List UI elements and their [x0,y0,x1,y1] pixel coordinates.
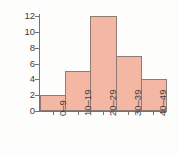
x-axis-tick-mark [103,111,104,115]
y-axis-tick-mark [35,79,40,80]
x-axis-tick-label: 0–9 [58,100,68,116]
y-axis-tick-mark [35,111,40,112]
y-axis-tick-label: 4 [3,74,35,83]
x-axis-tick-label: 40–49 [158,90,168,116]
x-axis-tick-mark [153,111,154,115]
y-axis-tick-label: 2 [3,90,35,99]
y-axis-tick-label: 12 [3,11,35,20]
y-axis-tick-label: 10 [3,27,35,36]
y-axis-tick-mark [35,48,40,49]
x-axis-tick-label: 20–29 [108,90,118,116]
x-axis-tick-mark [78,111,79,115]
x-axis-tick-mark [128,111,129,115]
y-axis-tick-mark [35,95,40,96]
y-axis-tick-label: 0 [3,106,35,115]
y-axis-tick-mark [35,64,40,65]
x-axis-tick-mark [53,111,54,115]
x-axis-tick-label: 10–19 [83,90,93,116]
histogram-chart: Frequency 024681012 0–910–1920–2930–3940… [0,0,178,154]
y-axis-tick-mark [35,32,40,33]
y-axis-tick-mark [35,16,40,17]
y-axis-tick-label: 6 [3,59,35,68]
plot-area [40,16,166,111]
x-axis-tick-label: 30–39 [133,90,143,116]
y-axis-tick-labels: 024681012 [0,0,35,154]
y-axis-tick-label: 8 [3,43,35,52]
